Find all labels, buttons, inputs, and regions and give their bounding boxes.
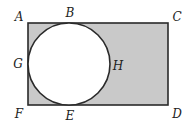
point-label-g: G [13,57,23,71]
point-label-b: B [65,6,75,20]
inscribed-circle [28,23,110,105]
point-label-e: E [65,109,75,123]
point-label-c: C [172,10,181,24]
diagram-canvas: A B C G H F E D [0,0,190,128]
point-label-h: H [112,59,124,73]
point-label-f: F [14,107,24,121]
point-label-d: D [171,107,182,121]
point-label-a: A [14,10,24,24]
geometry-diagram: A B C G H F E D [0,0,190,128]
